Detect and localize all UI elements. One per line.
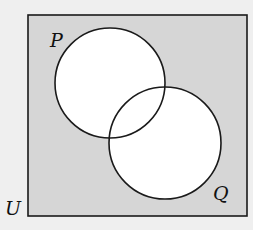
venn-diagram: P Q U [0, 0, 253, 230]
universe-label: U [5, 197, 22, 219]
set-p-label: P [49, 29, 64, 51]
set-q-label: Q [213, 182, 229, 204]
